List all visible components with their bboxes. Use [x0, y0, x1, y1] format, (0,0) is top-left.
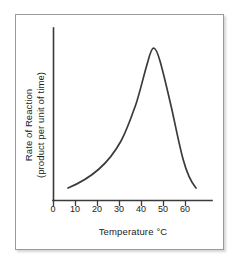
x-tick-label-20: 20 — [86, 204, 108, 214]
x-tick-label-0: 0 — [42, 204, 64, 214]
y-axis-title-line2: (product per unit of time) — [35, 72, 47, 178]
x-tick-label-10: 10 — [64, 204, 86, 214]
chart-plot-area: Rate of Reaction (product per unit of ti… — [0, 0, 239, 264]
data-curve — [68, 48, 196, 188]
x-tick-label-60: 60 — [174, 204, 196, 214]
x-tick-label-50: 50 — [152, 204, 174, 214]
x-tick-label-30: 30 — [108, 204, 130, 214]
y-axis-title-line1: Rate of Reaction — [23, 89, 35, 161]
y-axis-title: Rate of Reaction (product per unit of ti… — [18, 57, 52, 193]
x-tick-label-40: 40 — [130, 204, 152, 214]
x-axis-title: Temperature °C — [53, 226, 213, 237]
